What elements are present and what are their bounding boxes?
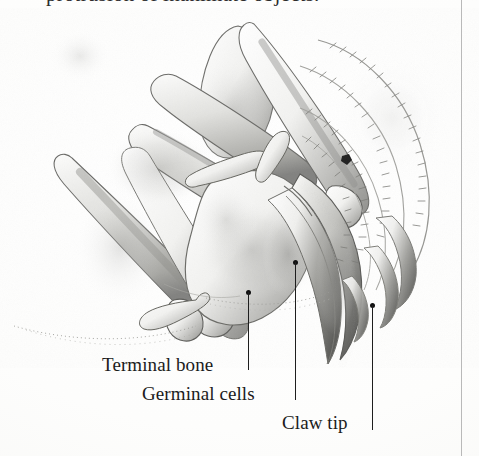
callout-label-germinal-cells: Germinal cells: [142, 384, 255, 403]
callout-label-terminal-bone: Terminal bone: [102, 355, 213, 374]
page-gutter-rule: [461, 0, 462, 456]
anatomical-illustration: [0, 8, 479, 368]
leader-line-terminal-bone: [248, 292, 249, 370]
callout-label-claw-tip: Claw tip: [282, 413, 348, 432]
running-text-partial: protrusion of inanimate objects.: [46, 0, 320, 7]
leader-line-claw-tip: [372, 305, 373, 430]
leader-line-germinal-cells: [295, 262, 296, 400]
